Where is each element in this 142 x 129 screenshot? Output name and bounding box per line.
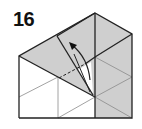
origami-diagram: [0, 0, 142, 129]
